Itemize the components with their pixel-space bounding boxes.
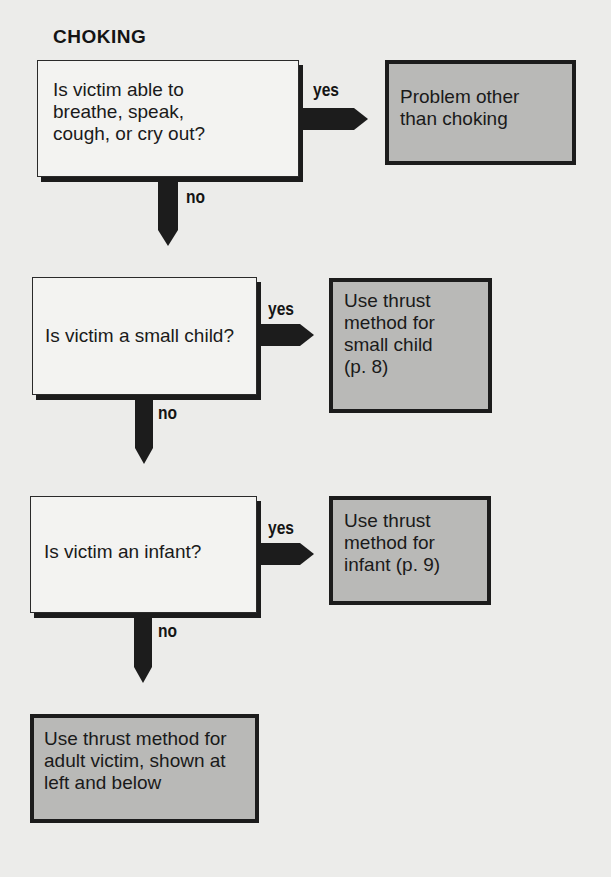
question-text: Is victim a small child? (45, 325, 234, 347)
result-text: Problem other than choking (400, 86, 519, 130)
yes-arrow-right-icon (302, 108, 368, 130)
result-box-infant: Use thrust method for infant (p. 9) (329, 496, 491, 605)
question-box-small-child: Is victim a small child? (32, 277, 257, 395)
result-box-other-problem: Problem other than choking (385, 60, 576, 165)
flowchart-title: CHOKING (53, 26, 146, 48)
no-arrow-down-icon (135, 398, 153, 464)
result-text: Use thrust method for infant (p. 9) (344, 510, 440, 576)
no-arrow-down-icon (134, 616, 152, 683)
yes-label: yes (268, 298, 294, 320)
result-text: Use thrust method for small child (p. 8) (344, 290, 435, 378)
result-box-small-child: Use thrust method for small child (p. 8) (329, 278, 492, 413)
result-text: Use thrust method for adult victim, show… (44, 728, 227, 794)
yes-arrow-right-icon (260, 324, 314, 346)
question-text: Is victim an infant? (44, 541, 201, 563)
yes-arrow-right-icon (260, 543, 314, 565)
result-box-adult: Use thrust method for adult victim, show… (30, 714, 259, 823)
question-text: Is victim able to breathe, speak, cough,… (53, 79, 205, 145)
no-label: no (158, 402, 177, 424)
no-arrow-down-icon (158, 180, 178, 246)
no-label: no (186, 186, 205, 208)
yes-label: yes (313, 79, 339, 101)
question-box-breathing: Is victim able to breathe, speak, cough,… (37, 60, 299, 177)
yes-label: yes (268, 517, 294, 539)
no-label: no (158, 620, 177, 642)
question-box-infant: Is victim an infant? (30, 496, 257, 613)
